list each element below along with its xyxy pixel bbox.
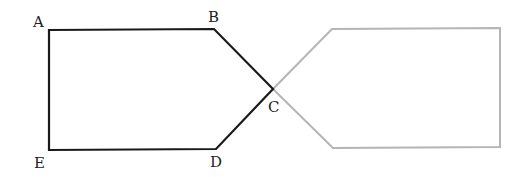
reflected-pentagon xyxy=(273,28,500,148)
pentagon-abcde xyxy=(49,29,273,150)
label-e: E xyxy=(34,154,45,172)
label-d: D xyxy=(210,153,222,171)
label-b: B xyxy=(208,8,219,26)
label-a: A xyxy=(32,13,44,31)
label-c: C xyxy=(268,98,279,116)
diagram-canvas: A B C D E xyxy=(0,0,524,177)
